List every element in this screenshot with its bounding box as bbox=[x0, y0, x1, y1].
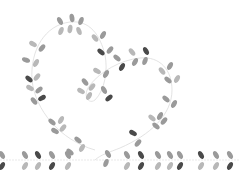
leaf bbox=[166, 150, 174, 160]
leaf bbox=[37, 94, 47, 102]
leaf bbox=[226, 150, 234, 160]
leaf bbox=[176, 150, 184, 160]
leaf bbox=[21, 150, 29, 160]
leaf bbox=[0, 150, 6, 160]
leaf bbox=[161, 94, 171, 103]
leaf bbox=[32, 72, 41, 82]
leaf bbox=[197, 150, 205, 160]
leaf bbox=[166, 61, 174, 71]
leaf bbox=[48, 150, 56, 160]
leaf bbox=[137, 150, 145, 160]
leaf bbox=[142, 46, 150, 56]
leaf bbox=[212, 150, 220, 160]
leaf bbox=[56, 16, 64, 26]
leaf bbox=[154, 161, 162, 171]
leaf bbox=[226, 161, 234, 171]
leaf bbox=[128, 129, 138, 137]
leaf bbox=[104, 93, 114, 102]
leaves-group bbox=[0, 13, 234, 170]
leaf bbox=[34, 150, 42, 160]
leaf bbox=[21, 56, 31, 63]
leaf bbox=[99, 30, 107, 40]
leaf bbox=[137, 161, 145, 171]
leaf bbox=[76, 87, 86, 95]
leaf bbox=[105, 45, 114, 55]
leaf bbox=[166, 161, 174, 171]
leaf bbox=[102, 69, 110, 79]
leaf bbox=[57, 115, 65, 125]
leaf bbox=[123, 161, 131, 171]
leaf bbox=[112, 53, 122, 62]
leaf bbox=[25, 84, 35, 92]
leaf bbox=[21, 161, 29, 171]
leaf bbox=[92, 67, 102, 75]
leaf bbox=[212, 161, 220, 171]
leaf bbox=[133, 138, 142, 148]
leaf bbox=[77, 16, 84, 26]
vine-heart-illustration bbox=[0, 0, 239, 176]
leaf bbox=[50, 127, 60, 135]
leaf bbox=[67, 24, 73, 33]
leaf bbox=[151, 121, 161, 130]
leaf bbox=[197, 161, 205, 171]
leaf bbox=[127, 47, 136, 57]
leaf bbox=[64, 161, 72, 171]
leaf bbox=[57, 26, 64, 36]
leaf bbox=[176, 161, 184, 171]
leaf bbox=[34, 85, 44, 94]
leaf bbox=[78, 143, 86, 153]
leaf bbox=[0, 161, 6, 171]
leaf bbox=[147, 113, 157, 122]
leaf bbox=[34, 161, 42, 171]
leaf bbox=[80, 77, 89, 87]
leaf bbox=[28, 40, 38, 48]
leaf bbox=[100, 85, 108, 95]
leaf bbox=[154, 150, 162, 160]
leaf bbox=[123, 150, 131, 160]
vine-heart-graphic bbox=[0, 0, 239, 176]
leaf bbox=[170, 99, 178, 109]
leaf bbox=[48, 161, 56, 171]
leaf bbox=[69, 13, 75, 22]
leaf bbox=[75, 26, 82, 36]
leaf bbox=[173, 74, 181, 84]
